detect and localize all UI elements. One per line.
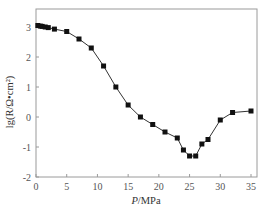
- data-point-marker: [52, 27, 57, 32]
- y-tick-label: 0: [26, 112, 31, 123]
- data-point-marker: [46, 25, 51, 30]
- data-point-marker: [138, 115, 143, 120]
- y-tick-label: 1: [26, 82, 31, 93]
- y-tick-label: -1: [23, 142, 31, 153]
- data-point-marker: [126, 103, 131, 108]
- data-point-marker: [249, 109, 254, 114]
- y-axis-label: lg(R/Ω•cm²): [4, 75, 16, 128]
- data-point-marker: [113, 85, 118, 90]
- data-point-marker: [218, 118, 223, 123]
- x-tick-label: 20: [154, 181, 164, 192]
- data-point-marker: [230, 110, 235, 115]
- x-tick-label: 35: [246, 181, 256, 192]
- x-tick-label: 0: [34, 181, 39, 192]
- plot-border: [36, 9, 257, 177]
- data-point-marker: [163, 130, 168, 135]
- chart: -2-10123 05101520253035 P/MPa lg(R/Ω•cm²…: [0, 0, 267, 213]
- y-ticks: -2-10123: [23, 22, 39, 183]
- x-tick-label: 5: [64, 181, 69, 192]
- data-point-marker: [175, 136, 180, 141]
- data-point-marker: [193, 154, 198, 159]
- x-tick-label: 10: [92, 181, 102, 192]
- data-point-marker: [101, 64, 106, 69]
- x-tick-label: 15: [123, 181, 133, 192]
- y-tick-label: 3: [26, 22, 31, 33]
- x-tick-label: 25: [185, 181, 195, 192]
- data-point-marker: [181, 148, 186, 153]
- data-point-marker: [187, 154, 192, 159]
- data-line: [38, 26, 251, 157]
- x-axis-label: P/MPa: [130, 195, 161, 206]
- x-tick-label: 30: [215, 181, 225, 192]
- data-point-marker: [199, 142, 204, 147]
- data-point-marker: [206, 137, 211, 142]
- data-point-marker: [150, 122, 155, 127]
- data-markers: [35, 23, 253, 159]
- y-tick-label: 2: [26, 52, 31, 63]
- data-point-marker: [64, 29, 69, 34]
- data-point-marker: [89, 46, 94, 51]
- y-tick-label: -2: [23, 172, 31, 183]
- axes-frame: [36, 9, 257, 177]
- data-point-marker: [77, 37, 82, 42]
